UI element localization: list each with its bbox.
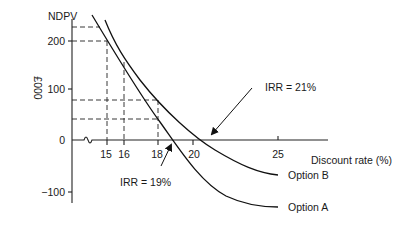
x-axis-title: Discount rate (%) — [311, 154, 392, 166]
y-axis-unit: £000 — [32, 76, 44, 100]
option-b-label: Option B — [288, 169, 329, 181]
x-tick-label-16: 16 — [118, 148, 130, 160]
y-tick-label-200: 200 — [47, 35, 65, 47]
y-tick-label-neg100: −100 — [41, 186, 65, 198]
y-axis-title: NDPV — [48, 10, 77, 22]
x-tick-label-20: 20 — [188, 148, 200, 160]
option-a-label: Option A — [288, 201, 328, 213]
x-tick-label-18: 18 — [151, 148, 163, 160]
x-tick-label-15: 15 — [100, 148, 112, 160]
irr-21-label: IRR = 21% — [265, 81, 316, 93]
ndpv-chart: NDPV £000 200 100 0 −100 15 16 18 20 25 … — [0, 0, 412, 226]
irr-19-label: IRR = 19% — [120, 176, 171, 188]
y-tick-label-0: 0 — [59, 134, 65, 146]
irr-21-arrow — [212, 88, 252, 134]
x-tick-label-25: 25 — [272, 148, 284, 160]
y-tick-label-100: 100 — [47, 83, 65, 95]
